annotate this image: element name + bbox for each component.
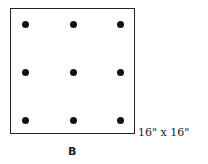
dot-icon [117,117,124,124]
figure-label: B [68,145,76,158]
dimension-label: 16" x 16" [138,126,189,139]
dot-icon [22,117,29,124]
dot-icon [117,21,124,28]
dot-icon [70,69,77,76]
dot-icon [22,21,29,28]
dot-icon [117,69,124,76]
dot-icon [70,21,77,28]
dot-icon [70,117,77,124]
dot-icon [22,69,29,76]
